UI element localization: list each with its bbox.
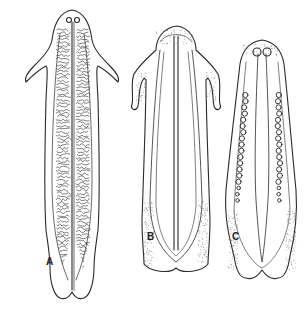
stipple-dot — [232, 256, 233, 257]
stipple-dot — [291, 262, 292, 263]
stipple-dot — [293, 222, 294, 223]
stipple-dot — [235, 254, 236, 255]
stipple-dot — [202, 258, 203, 259]
stipple-dot — [145, 208, 146, 209]
stipple-dot — [207, 94, 208, 95]
stipple-dot — [215, 76, 216, 77]
stipple-dot — [205, 210, 206, 211]
stipple-dot — [141, 97, 142, 98]
stipple-dot — [205, 244, 206, 245]
stipple-dot — [151, 207, 152, 208]
stipple-dot — [286, 259, 287, 260]
stipple-dot — [290, 220, 291, 221]
stipple-dot — [213, 78, 214, 79]
stipple-dot — [145, 79, 146, 80]
intestinal-branch — [57, 147, 68, 150]
stipple-dot — [294, 213, 295, 214]
stipple-dot — [157, 42, 158, 43]
stipple-dot — [203, 215, 204, 216]
stipple-dot — [206, 237, 207, 238]
stipple-dot — [293, 260, 294, 261]
stipple-dot — [215, 82, 216, 83]
stipple-dot — [287, 245, 288, 246]
stipple-dot — [268, 46, 269, 47]
stipple-dot — [141, 100, 142, 101]
stipple-dot — [176, 43, 177, 44]
stipple-dot — [144, 246, 145, 247]
stipple-dot — [144, 86, 145, 87]
stipple-dot — [214, 87, 215, 88]
stipple-dot — [287, 266, 288, 267]
stipple-dot — [199, 233, 200, 234]
stipple-dot — [201, 221, 202, 222]
intestinal-branch — [57, 189, 68, 191]
stipple-dot — [288, 235, 289, 236]
stipple-dot — [237, 220, 238, 221]
intestinal-branch — [56, 125, 69, 127]
specimen-a-intestinal-branches — [56, 29, 90, 280]
stipple-dot — [138, 90, 139, 91]
stipple-dot — [213, 86, 214, 87]
intestinal-branch — [78, 83, 89, 85]
intestinal-branch — [76, 157, 89, 159]
stipple-dot — [202, 244, 203, 245]
stipple-dot — [175, 37, 176, 38]
intestinal-branch — [60, 254, 67, 255]
stipple-dot — [201, 208, 202, 209]
stipple-dot — [276, 55, 277, 56]
stipple-dot — [264, 48, 265, 49]
stipple-dot — [237, 227, 238, 228]
intestinal-branch — [77, 77, 88, 79]
stipple-dot — [288, 248, 289, 249]
intestinal-branch — [56, 99, 69, 101]
stipple-dot — [277, 50, 278, 51]
stipple-dot — [207, 77, 208, 78]
stipple-dot — [293, 221, 294, 222]
stipple-dot — [200, 250, 201, 251]
stipple-dot — [205, 231, 206, 232]
stipple-dot — [202, 233, 203, 234]
intestinal-branch — [56, 135, 69, 137]
stipple-dot — [291, 264, 292, 265]
stipple-dot — [202, 239, 203, 240]
intestinal-branch — [77, 93, 90, 95]
intestinal-branch — [76, 218, 89, 220]
stipple-dot — [145, 98, 146, 99]
stipple-dot — [292, 237, 293, 238]
stipple-dot — [252, 51, 253, 52]
follicle — [237, 173, 242, 178]
stipple-dot — [144, 263, 145, 264]
stipple-dot — [233, 269, 234, 270]
stipple-dot — [202, 211, 203, 212]
intestinal-branch — [58, 192, 71, 195]
stipple-dot — [287, 234, 288, 235]
stipple-dot — [247, 52, 248, 53]
stipple-dot — [143, 92, 144, 93]
stipple-dot — [293, 231, 294, 232]
stipple-dot — [199, 206, 200, 207]
intestinal-branch — [83, 260, 84, 261]
stipple-dot — [146, 253, 147, 254]
stipple-dot — [244, 45, 245, 46]
stipple-dot — [205, 225, 206, 226]
intestinal-branch — [77, 36, 90, 38]
follicle — [277, 154, 282, 159]
stipple-dot — [156, 32, 157, 33]
stipple-dot — [228, 266, 229, 267]
intestinal-branch — [57, 64, 68, 66]
stipple-dot — [156, 31, 157, 32]
stipple-dot — [148, 251, 149, 252]
intestinal-branch — [57, 224, 68, 226]
stipple-dot — [207, 233, 208, 234]
stipple-dot — [207, 262, 208, 263]
stipple-dot — [294, 239, 295, 240]
stipple-dot — [287, 214, 288, 215]
stipple-dot — [295, 236, 296, 237]
stipple-dot — [294, 219, 295, 220]
stipple-dot — [182, 41, 183, 42]
stipple-dot — [207, 208, 208, 209]
stipple-dot — [199, 205, 200, 206]
stipple-dot — [214, 78, 215, 79]
stipple-dot — [270, 45, 271, 46]
stipple-dot — [237, 267, 238, 268]
